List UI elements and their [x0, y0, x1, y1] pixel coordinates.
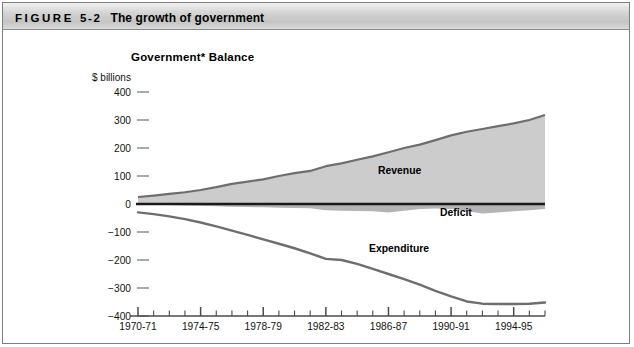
- expenditure-series-label: Expenditure: [369, 243, 429, 254]
- x-axis-tick-label: 1974-75: [182, 321, 220, 332]
- revenue-series-label: Revenue: [378, 165, 422, 176]
- expenditure-line: [138, 212, 545, 304]
- figure-container: FIGURE5-2The growth of government Govern…: [0, 0, 634, 347]
- deficit-series-label: Deficit: [440, 207, 472, 218]
- y-axis-tick-label: 100: [114, 171, 131, 182]
- y-axis-tick-label: −400: [108, 311, 131, 322]
- figure-frame: FIGURE5-2The growth of government Govern…: [2, 2, 630, 344]
- y-axis-tick-label: −300: [108, 283, 131, 294]
- x-axis-tick-label: 1978-79: [245, 321, 283, 332]
- y-axis-tick-label: 0: [125, 199, 131, 210]
- chart-plot: 4003002001000−100−200−300−4001970-711974…: [3, 3, 629, 345]
- deficit-area: [138, 204, 545, 214]
- x-axis-tick-label: 1982-83: [307, 321, 345, 332]
- x-axis-tick-label: 1970-71: [119, 321, 157, 332]
- x-axis-tick-label: 1994-95: [495, 321, 533, 332]
- y-axis-tick-label: 200: [114, 143, 131, 154]
- x-axis-tick-label: 1990-91: [432, 321, 470, 332]
- y-axis-tick-label: −100: [108, 227, 131, 238]
- y-axis-tick-label: 300: [114, 115, 131, 126]
- y-axis-tick-label: −200: [108, 255, 131, 266]
- x-axis-tick-label: 1986-87: [370, 321, 408, 332]
- y-axis-tick-label: 400: [114, 87, 131, 98]
